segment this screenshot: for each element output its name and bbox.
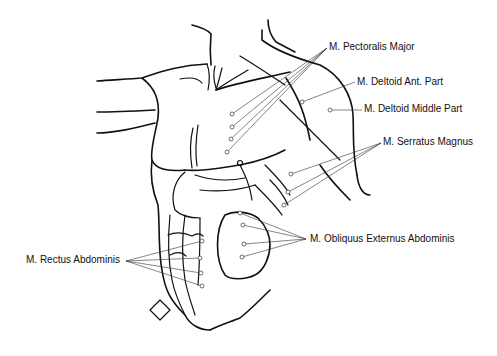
serratus-leaders [282, 143, 381, 207]
anatomy-diagram: M. Pectoralis Major M. Deltoid Ant. Part… [0, 0, 497, 356]
torso-illustration [0, 0, 497, 356]
label-deltoid-ant-part: M. Deltoid Ant. Part [357, 76, 443, 88]
pectoralis-leaders [225, 48, 327, 154]
label-deltoid-middle-part: M. Deltoid Middle Part [364, 103, 462, 115]
obliquus-leaders [238, 211, 306, 259]
label-serratus-magnus: M. Serratus Magnus [383, 136, 473, 148]
rectus-leaders [126, 239, 204, 288]
label-pectoralis-major: M. Pectoralis Major [329, 41, 415, 53]
label-rectus-abdominis: M. Rectus Abdominis [26, 254, 120, 266]
label-obliquus-externus: M. Obliquus Externus Abdominis [310, 233, 455, 245]
